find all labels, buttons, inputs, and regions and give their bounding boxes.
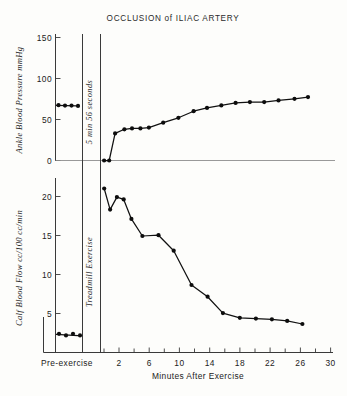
figure-container: OCCLUSION of ILIAC ARTERY 150 100 50 0 A…: [0, 0, 347, 396]
xtick-30: 30: [326, 358, 336, 368]
xtick-18: 18: [235, 358, 245, 368]
xtick-2: 2: [116, 358, 121, 368]
upper-post-exercise-series: [102, 95, 310, 163]
lower-ytick-5: 5: [47, 309, 52, 319]
lower-y-ticks: [56, 197, 61, 314]
lower-ytick-20: 20: [42, 192, 52, 202]
upper-ytick-50: 50: [42, 115, 52, 125]
annotation-treadmill-exercise: Treadmill Exercise: [85, 237, 94, 307]
chart-svg: OCCLUSION of ILIAC ARTERY 150 100 50 0 A…: [0, 0, 347, 396]
lower-pre-exercise-series: [56, 332, 82, 338]
annotation-duration: 5 min 56 seconds: [85, 80, 94, 144]
xtick-6: 6: [147, 358, 152, 368]
upper-ytick-0: 0: [47, 156, 52, 166]
xtick-14: 14: [205, 358, 215, 368]
lower-post-exercise-series: [102, 186, 304, 326]
xtick-10: 10: [174, 358, 184, 368]
pre-exercise-label: Pre-exercise: [41, 358, 93, 368]
upper-ytick-100: 100: [37, 74, 52, 84]
xtick-22: 22: [265, 358, 275, 368]
upper-y-axis-label: Ankle Blood Pressure mmHg: [14, 46, 24, 154]
upper-ytick-150: 150: [37, 33, 52, 43]
upper-pre-exercise-series: [56, 103, 80, 108]
x-axis-label: Minutes After Exercise: [152, 371, 244, 381]
page-title: OCCLUSION of ILIAC ARTERY: [107, 14, 240, 23]
lower-ytick-15: 15: [42, 231, 52, 241]
xtick-26: 26: [295, 358, 305, 368]
lower-ytick-10: 10: [42, 270, 52, 280]
lower-y-axis-label: Calf Blood Flow cc/100 cc/min: [14, 210, 24, 326]
upper-y-ticks: [56, 38, 61, 161]
